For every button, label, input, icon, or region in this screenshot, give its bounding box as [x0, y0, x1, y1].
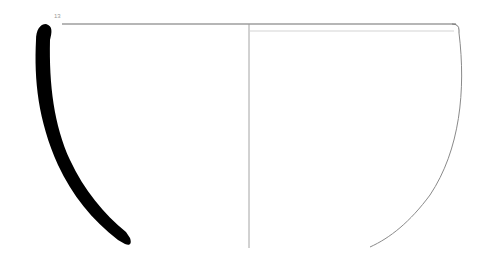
exterior-outline	[370, 33, 462, 247]
section-profile	[36, 24, 131, 245]
rim-corner	[452, 24, 459, 33]
bowl-profile-svg	[0, 0, 480, 280]
